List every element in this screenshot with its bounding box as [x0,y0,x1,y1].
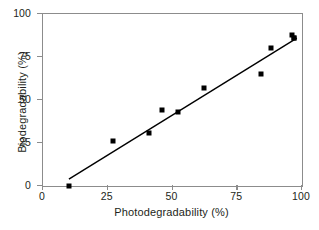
y-tick-mark [37,99,42,100]
x-tick-label: 0 [39,190,45,202]
y-tick-label: 75 [19,50,31,62]
y-tick-label: 0 [25,179,31,191]
x-tick-label: 75 [230,190,242,202]
x-axis-title: Photodegradability (%) [42,206,301,218]
x-tick-label: 50 [166,190,178,202]
x-tick-label: 25 [101,190,113,202]
y-axis-tick-labels: 0255075100 [0,13,31,185]
y-tick-mark [37,56,42,57]
y-tick-mark [37,13,42,14]
x-tick-label: 100 [292,190,310,202]
y-tick-mark [37,185,42,186]
y-axis-tick-marks [42,13,301,185]
y-tick-label: 50 [19,93,31,105]
y-tick-mark [37,142,42,143]
y-tick-label: 100 [13,7,31,19]
chart-figure: Biodegradability (%) 0255075100 02550751… [0,0,319,230]
y-tick-label: 25 [19,136,31,148]
